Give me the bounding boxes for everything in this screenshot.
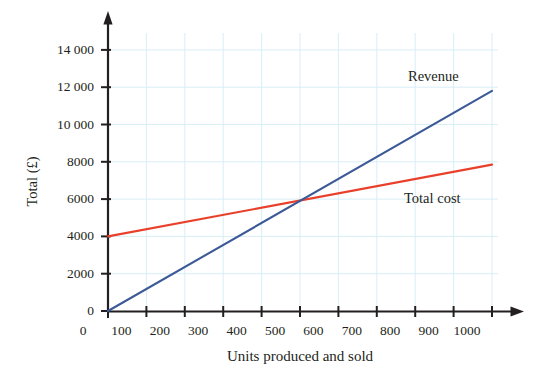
- y-axis-ticks: [101, 50, 111, 311]
- y-tick-label-2000: 2000: [22, 267, 94, 281]
- chart-container: 14 000 12 000 10 000 8000 6000 4000 2000…: [0, 0, 536, 379]
- y-axis-title: Total (£): [24, 122, 41, 242]
- y-tick-label-0: 0: [22, 304, 94, 318]
- series-label-total-cost: Total cost: [404, 190, 461, 207]
- x-axis: [107, 307, 524, 317]
- x-axis-title: Units produced and sold: [108, 348, 492, 365]
- y-tick-label-12000: 12 000: [22, 80, 94, 94]
- y-tick-label-14000: 14 000: [22, 43, 94, 57]
- series-label-revenue: Revenue: [408, 68, 459, 85]
- x-tick-label-1000: 1000: [442, 324, 492, 338]
